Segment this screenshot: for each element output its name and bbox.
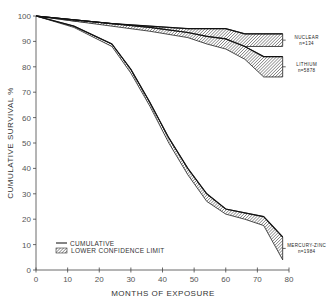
x-tick-label: 10 xyxy=(63,275,72,284)
y-tick-label: 70 xyxy=(22,88,31,97)
x-tick-label: 20 xyxy=(95,275,104,284)
x-tick-label: 60 xyxy=(221,275,230,284)
nuclear-label: NUCLEAR xyxy=(295,35,320,40)
lithium-n-label: n=5878 xyxy=(298,68,316,73)
lithium-label: LITHIUM xyxy=(296,62,317,67)
x-axis-title: MONTHS OF EXPOSURE xyxy=(111,289,215,298)
legend: CUMULATIVELOWER CONFIDENCE LIMIT xyxy=(56,240,165,255)
x-tick-label: 0 xyxy=(34,275,39,284)
mercury-zinc-label: MERCURY-ZINC xyxy=(287,243,326,248)
x-tick-label: 30 xyxy=(126,275,135,284)
confidence-bands xyxy=(36,16,283,260)
y-axis-title: CUMULATIVE SURVIVAL % xyxy=(6,87,15,199)
y-tick-label: 100 xyxy=(18,12,32,21)
x-tick-label: 50 xyxy=(190,275,199,284)
y-tick-label: 90 xyxy=(22,37,31,46)
y-tick-label: 30 xyxy=(22,190,31,199)
x-tick-label: 40 xyxy=(158,275,167,284)
y-tick-label: 60 xyxy=(22,114,31,123)
nuclear-n-label: n=134 xyxy=(299,41,314,46)
legend-cumulative-label: CUMULATIVE xyxy=(70,240,115,247)
y-tick-label: 40 xyxy=(22,164,31,173)
legend-hatch-swatch xyxy=(56,248,67,253)
y-tick-label: 20 xyxy=(22,215,31,224)
series-labels: NUCLEARn=134LITHIUMn=5878MERCURY-ZINCn=1… xyxy=(283,35,327,254)
legend-lower-confidence-label: LOWER CONFIDENCE LIMIT xyxy=(71,247,165,254)
survival-chart: 010203040506070809010001020304050607080 … xyxy=(0,0,334,302)
y-tick-label: 50 xyxy=(22,139,31,148)
y-tick-label: 10 xyxy=(22,241,31,250)
x-tick-label: 80 xyxy=(285,275,294,284)
y-tick-label: 80 xyxy=(22,63,31,72)
x-tick-label: 70 xyxy=(253,275,262,284)
y-tick-label: 0 xyxy=(27,266,32,275)
mercury-zinc-n-label: n=1984 xyxy=(298,249,316,254)
